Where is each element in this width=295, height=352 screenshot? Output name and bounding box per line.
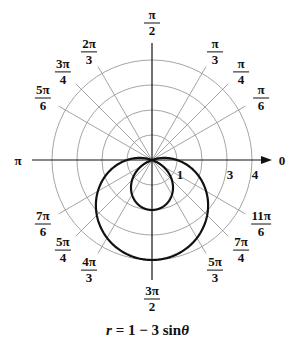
angle-label: π [14, 153, 21, 168]
svg-text:5π: 5π [56, 234, 70, 249]
svg-text:π: π [211, 36, 218, 51]
radial-tick-labels: 134 [177, 167, 259, 182]
svg-text:6: 6 [40, 98, 47, 113]
angle-label: 5π4 [55, 234, 71, 265]
angle-label: π4 [233, 56, 249, 87]
equation-caption: r = 1 − 3 sinθ [0, 322, 295, 339]
angle-label: 5π6 [35, 82, 51, 113]
angle-label: 5π3 [207, 254, 223, 285]
svg-text:3: 3 [212, 52, 219, 67]
angle-label: 11π6 [251, 208, 271, 239]
svg-text:4: 4 [238, 72, 245, 87]
svg-text:2: 2 [149, 23, 156, 38]
svg-text:11π: 11π [251, 208, 270, 223]
angle-label: 4π3 [81, 254, 97, 285]
svg-text:π: π [258, 82, 265, 97]
grid-spoke [152, 106, 246, 160]
angle-label: π3 [207, 36, 223, 67]
svg-text:7π: 7π [36, 208, 50, 223]
angle-label: 3π2 [144, 283, 160, 314]
angle-label: 3π4 [55, 56, 71, 87]
grid-spoke [98, 66, 152, 160]
polar-plot: 0π6π4π3π22π33π45π6π7π65π44π33π25π37π411π… [0, 0, 295, 352]
svg-text:π: π [14, 153, 21, 168]
angle-label: π6 [253, 82, 269, 113]
svg-text:6: 6 [40, 224, 47, 239]
svg-text:4: 4 [60, 72, 67, 87]
svg-text:π: π [238, 56, 245, 71]
angle-label: 7π4 [233, 234, 249, 265]
svg-text:4: 4 [238, 250, 245, 265]
svg-text:6: 6 [258, 224, 265, 239]
svg-text:7π: 7π [234, 234, 248, 249]
svg-text:6: 6 [258, 98, 265, 113]
svg-text:0: 0 [279, 153, 286, 168]
grid-spoke [152, 66, 206, 160]
angle-label: π2 [144, 7, 160, 38]
svg-text:3π: 3π [56, 56, 70, 71]
radial-tick-label: 1 [177, 167, 184, 182]
svg-text:3: 3 [86, 270, 93, 285]
angle-label: 7π6 [35, 208, 51, 239]
svg-text:4: 4 [60, 250, 67, 265]
radial-tick-label: 4 [252, 167, 259, 182]
arrow-right-icon [261, 156, 272, 164]
svg-text:3: 3 [212, 270, 219, 285]
radial-tick-label: 3 [227, 167, 234, 182]
svg-text:5π: 5π [208, 254, 222, 269]
svg-text:4π: 4π [82, 254, 96, 269]
grid-spoke [58, 106, 152, 160]
svg-text:3π: 3π [145, 283, 159, 298]
svg-text:π: π [148, 7, 155, 22]
svg-text:2π: 2π [82, 36, 96, 51]
angle-label: 2π3 [81, 36, 97, 67]
svg-text:5π: 5π [36, 82, 50, 97]
svg-text:3: 3 [86, 52, 93, 67]
angle-label: 0 [279, 153, 286, 168]
svg-text:2: 2 [149, 299, 156, 314]
